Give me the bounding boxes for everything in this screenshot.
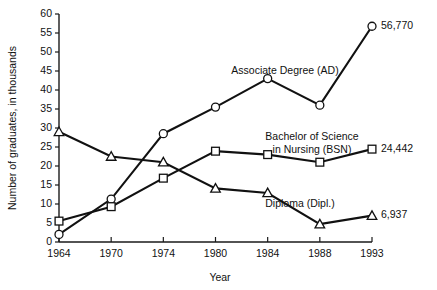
value-label-bsn: 24,442 — [381, 142, 413, 154]
series-label-bsn-line1: Bachelor of Science — [265, 130, 359, 142]
y-axis-tick-label: 20 — [40, 159, 52, 171]
x-axis: 1964197019741980198419881993 — [47, 237, 384, 259]
x-axis-tick-label: 1988 — [308, 247, 332, 259]
y-axis-tick-label: 25 — [40, 140, 52, 152]
y-axis-tick-label: 15 — [40, 178, 52, 190]
data-point-square — [316, 158, 324, 166]
y-axis-tick-label: 10 — [40, 197, 52, 209]
y-axis-tick-label: 45 — [40, 64, 52, 76]
data-point-circle — [107, 195, 115, 203]
data-point-circle — [159, 130, 167, 138]
x-axis-title: Year — [209, 271, 231, 283]
data-point-circle — [316, 101, 324, 109]
x-axis-tick-label: 1964 — [47, 247, 71, 259]
y-axis-tick-label: 0 — [46, 235, 52, 247]
y-axis-tick-label: 55 — [40, 26, 52, 38]
value-label-diploma: 6,937 — [381, 208, 407, 220]
y-axis-tick-label: 5 — [46, 216, 52, 228]
series-label-bsn-line2: in Nursing (BSN) — [273, 143, 352, 155]
chart-container: 051015202530354045505560 196419701974198… — [0, 0, 437, 290]
x-axis-tick-label: 1974 — [152, 247, 176, 259]
data-point-circle — [212, 103, 220, 111]
data-point-square — [55, 217, 63, 225]
data-point-square — [159, 174, 167, 182]
y-axis-tick-label: 30 — [40, 121, 52, 133]
series-label-bsn: Bachelor of Sciencein Nursing (BSN) — [265, 130, 359, 155]
x-axis-tick-label: 1970 — [99, 247, 123, 259]
y-axis: 051015202530354045505560 — [40, 7, 59, 247]
x-axis-tick-label: 1980 — [204, 247, 228, 259]
value-label-ad: 56,770 — [381, 19, 413, 31]
y-axis-tick-label: 35 — [40, 102, 52, 114]
line-chart: 051015202530354045505560 196419701974198… — [0, 0, 437, 290]
data-point-triangle — [367, 211, 377, 220]
x-axis-tick-label: 1984 — [256, 247, 280, 259]
x-axis-tick-label: 1993 — [360, 247, 384, 259]
y-axis-tick-label: 40 — [40, 83, 52, 95]
data-point-square — [264, 151, 272, 159]
series-label-ad: Associate Degree (AD) — [231, 64, 338, 76]
data-point-square — [368, 145, 376, 153]
y-axis-title: Number of graduates, in thousands — [6, 46, 18, 210]
y-axis-tick-label: 60 — [40, 7, 52, 19]
data-point-square — [212, 147, 220, 155]
data-point-circle — [55, 230, 63, 238]
y-axis-tick-label: 50 — [40, 45, 52, 57]
data-point-square — [107, 203, 115, 211]
data-point-circle — [368, 22, 376, 30]
series-label-diploma: Diploma (Dipl.) — [265, 197, 334, 209]
annotation-layer: Associate Degree (AD)Bachelor of Science… — [231, 19, 413, 220]
